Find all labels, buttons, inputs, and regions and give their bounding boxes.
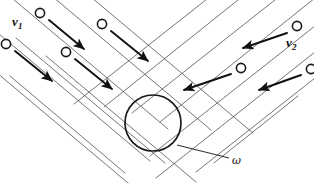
particle-left <box>61 47 70 56</box>
v1-symbol: v <box>12 14 18 29</box>
beam-line-right <box>104 0 258 107</box>
beam-line-left <box>40 0 211 130</box>
beam-line-left <box>46 56 196 182</box>
interaction-region-circle <box>125 95 181 151</box>
v2-symbol: v <box>286 35 292 50</box>
velocity-arrow-right <box>184 74 231 90</box>
figure-canvas <box>0 0 314 185</box>
velocity-arrow-left <box>15 51 52 81</box>
beam-left-lines <box>0 0 253 183</box>
velocity-arrow-left <box>111 31 148 61</box>
velocity-label-v2: v2 <box>286 36 296 52</box>
particle-left <box>35 8 44 17</box>
colliding-beams-figure: v1 v2 ω <box>0 0 314 185</box>
particle-right <box>306 64 314 73</box>
beam-right-lines <box>74 0 314 178</box>
beam-line-right <box>196 74 314 172</box>
beam-line-right <box>214 96 298 163</box>
particle-right <box>292 21 301 30</box>
beam-line-left <box>10 76 125 173</box>
velocity-arrow-left <box>49 20 84 49</box>
velocity-arrow-right <box>243 33 287 48</box>
particle-left <box>1 39 10 48</box>
particles-right-beam <box>184 21 314 90</box>
beam-line-right <box>74 0 226 104</box>
v1-subscript: 1 <box>18 21 23 31</box>
omega-leader-line <box>177 145 229 158</box>
omega-label: ω <box>232 155 241 166</box>
beam-line-right <box>132 0 290 113</box>
velocity-arrow-right <box>259 75 301 90</box>
velocity-label-v1: v1 <box>12 15 22 31</box>
beam-line-left <box>0 57 128 183</box>
particle-left <box>97 19 106 28</box>
v2-subscript: 2 <box>292 42 297 52</box>
particle-right <box>236 63 245 72</box>
particles-left-beam <box>1 8 148 89</box>
